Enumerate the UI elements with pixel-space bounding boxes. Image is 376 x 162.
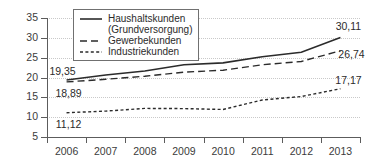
dotted-line-key-icon [79,47,103,57]
legend-label-industriekunden: Industriekunden [108,46,179,57]
legend-label-gewerbekunden: Gewerbekunden [108,35,181,46]
legend-label-haushaltskunden: Haushaltskunden [108,13,185,24]
dashed-line-key-icon [79,36,103,46]
legend-item-industriekunden: Industriekunden [79,46,192,57]
data-label-industry-end: 17,17 [335,74,361,86]
legend-item-haushaltskunden: Haushaltskunden [79,13,192,24]
legend-label-haushaltskunden-line2: (Grundversorgung) [79,24,192,35]
data-label-commercial-start: 18,89 [55,87,81,99]
data-label-industry-start: 11,12 [56,118,82,130]
chart-legend: Haushaltskunden (Grundversorgung) Gewerb… [73,9,199,61]
series-line-industriekunden [67,89,341,113]
legend-item-gewerbekunden: Gewerbekunden [79,35,192,46]
line-chart: ct/kWh 3530252015105 2006200720082009201… [0,0,376,162]
data-label-commercial-end: 26,74 [338,48,364,60]
solid-line-key-icon [79,14,103,24]
data-label-household-end: 30,11 [336,20,362,32]
data-label-household-start: 19,35 [49,65,75,77]
